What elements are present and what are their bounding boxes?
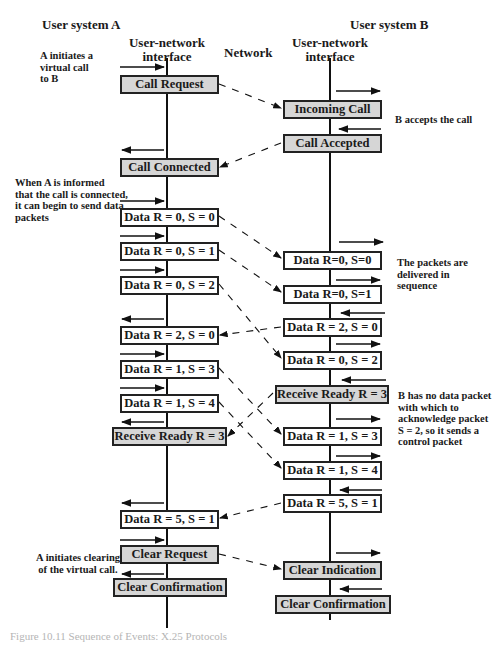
header-interface-b: User-network interface (281, 36, 379, 64)
packet-a-data: Data R = 1, S = 4 (120, 394, 219, 413)
packet-a-clear-confirmation: Clear Confirmation (113, 578, 227, 597)
packet-a-data: Data R = 0, S = 2 (120, 276, 219, 295)
packet-b-clear-confirmation: Clear Confirmation (275, 595, 391, 614)
packet-a-data: Data R = 5, S = 1 (120, 510, 219, 529)
note-b-no-data: B has no data packet with which to ackno… (398, 390, 491, 448)
packet-b-incoming-call: Incoming Call (283, 100, 382, 119)
packet-b-data: Data R=0, S=1 (283, 285, 382, 304)
packet-b-receive-ready: Receive Ready R = 3 (275, 385, 389, 404)
packet-a-clear-request: Clear Request (120, 545, 219, 564)
packet-b-data: Data R = 5, S = 1 (283, 494, 382, 513)
packet-a-call-request: Call Request (120, 75, 219, 94)
packet-b-call-accepted: Call Accepted (283, 134, 382, 153)
packet-b-data: Data R = 2, S = 0 (283, 318, 382, 337)
packet-b-data: Data R=0, S=0 (283, 251, 382, 270)
header-network: Network (224, 46, 272, 60)
packet-b-clear-indication: Clear Indication (283, 561, 382, 580)
packet-b-data: Data R = 1, S = 4 (283, 461, 382, 480)
packet-a-data: Data R = 1, S = 3 (120, 360, 219, 379)
note-in-sequence: The packets are delivered in sequence (397, 257, 468, 292)
header-interface-a: User-network interface (118, 36, 216, 64)
packet-a-call-connected: Call Connected (120, 158, 219, 177)
packet-b-data: Data R = 0, S = 2 (283, 351, 382, 370)
packet-a-data: Data R = 0, S = 1 (120, 242, 219, 261)
note-a-initiates: A initiates a virtual call to B (40, 50, 93, 85)
packet-a-data: Data R = 2, S = 0 (120, 326, 219, 345)
note-a-informed: When A is informed that the call is conn… (15, 177, 128, 223)
header-user-system-b: User system B (350, 18, 428, 32)
sequence-lines (0, 0, 503, 645)
note-a-clearing: A initiates clearing of the virtual call… (36, 552, 120, 575)
packet-b-data: Data R = 1, S = 3 (283, 427, 382, 446)
note-b-accepts: B accepts the call (395, 114, 472, 126)
packet-a-data: Data R = 0, S = 0 (120, 208, 219, 227)
header-user-system-a: User system A (42, 18, 120, 32)
packet-a-receive-ready: Receive Ready R = 3 (112, 427, 227, 446)
figure-caption: Figure 10.11 Sequence of Events: X.25 Pr… (10, 630, 227, 642)
